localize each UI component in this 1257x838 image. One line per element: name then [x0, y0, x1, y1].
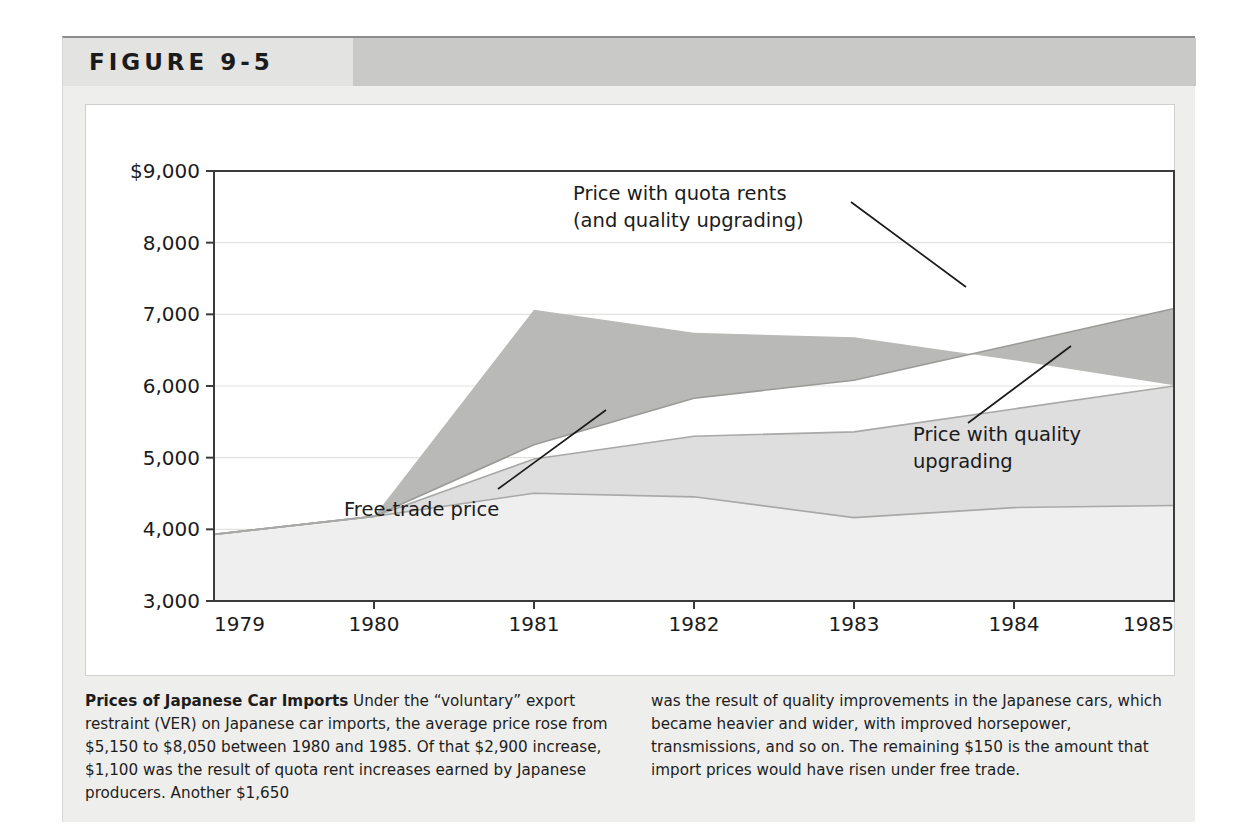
x-tick-label-1983: 1983	[829, 612, 880, 636]
figure-container: FIGURE 9-5	[62, 36, 1195, 822]
x-tick-label-1985: 1985	[1123, 612, 1174, 636]
y-tick-label-9000: $9,000	[130, 159, 200, 183]
figure-header-right-block	[353, 38, 1196, 86]
x-axis-ticks	[374, 601, 1014, 609]
y-tick-label-6000: 6,000	[143, 374, 200, 398]
figure-caption: Prices of Japanese Car Imports Under the…	[85, 690, 1181, 805]
quota-rents-annotation-line2: (and quality upgrading)	[573, 209, 804, 232]
caption-text-right: was the result of quality improvements i…	[651, 692, 1162, 779]
y-tick-label-8000: 8,000	[143, 231, 200, 255]
figure-header-left-block: FIGURE 9-5	[63, 38, 353, 86]
caption-column-right: was the result of quality improvements i…	[651, 690, 1181, 805]
y-tick-label-3000: 3,000	[143, 589, 200, 613]
figure-label: FIGURE 9-5	[63, 49, 274, 75]
x-tick-label-1979: 1979	[214, 612, 265, 636]
x-tick-label-1984: 1984	[989, 612, 1040, 636]
figure-header-band: FIGURE 9-5	[63, 38, 1196, 86]
x-tick-label-1981: 1981	[509, 612, 560, 636]
y-tick-label-5000: 5,000	[143, 446, 200, 470]
free-trade-price-annotation-line1: Free-trade price	[344, 498, 499, 521]
caption-column-left: Prices of Japanese Car Imports Under the…	[85, 690, 615, 805]
y-axis-ticks	[206, 171, 214, 601]
quality-upgrading-annotation-line1: Price with quality	[913, 423, 1081, 446]
y-tick-label-7000: 7,000	[143, 302, 200, 326]
area-chart: $9,000 8,000 7,000 6,000 5,000 4,000 3,0…	[86, 105, 1176, 677]
quality-upgrading-annotation-line2: upgrading	[913, 450, 1013, 473]
x-tick-label-1982: 1982	[669, 612, 720, 636]
chart-plot-panel: $9,000 8,000 7,000 6,000 5,000 4,000 3,0…	[85, 104, 1175, 676]
caption-title: Prices of Japanese Car Imports	[85, 692, 348, 710]
x-tick-label-1980: 1980	[349, 612, 400, 636]
quota-rents-annotation-line1: Price with quota rents	[573, 182, 787, 205]
y-tick-label-4000: 4,000	[143, 517, 200, 541]
